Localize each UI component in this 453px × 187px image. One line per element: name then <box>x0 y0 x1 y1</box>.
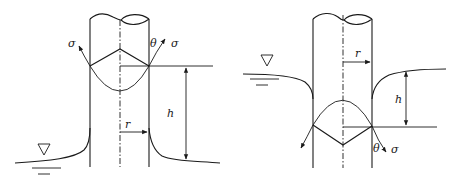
water-surface-left <box>15 128 90 163</box>
surface-tension-arrow-left <box>301 125 313 148</box>
height-label: h <box>167 107 174 120</box>
capillary-diagram-canvas: h r σ θ σ h r <box>0 0 453 187</box>
sigma-left-label: σ <box>68 37 76 50</box>
surface-tension-arrow-left <box>79 46 90 66</box>
panel-capillary-depression: h r θ σ <box>243 13 446 168</box>
radius-label: r <box>355 47 361 60</box>
water-level-symbol-icon <box>38 144 50 155</box>
sigma-label: σ <box>391 143 399 156</box>
tube-break-wave <box>90 14 149 25</box>
panel-capillary-rise: h r σ θ σ <box>15 14 220 174</box>
water-surface-right <box>372 69 446 99</box>
meniscus-arc <box>90 66 149 91</box>
meniscus-chord-v <box>90 49 149 66</box>
water-level-symbol-icon <box>261 55 273 66</box>
theta-label: θ <box>373 142 380 155</box>
water-surface-right <box>149 128 220 163</box>
water-surface-left <box>243 74 313 99</box>
height-label: h <box>395 93 402 106</box>
sigma-right-label: σ <box>171 37 179 50</box>
meniscus-arc <box>313 100 372 126</box>
theta-label: θ <box>150 37 157 50</box>
tube-break-wave <box>313 13 372 24</box>
radius-label: r <box>125 118 131 131</box>
meniscus-chord-v <box>313 125 372 145</box>
